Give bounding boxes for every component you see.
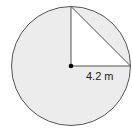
circle-diagram: 4.2 m — [0, 0, 132, 131]
radius-label: 4.2 m — [86, 70, 114, 82]
center-point — [69, 64, 74, 69]
